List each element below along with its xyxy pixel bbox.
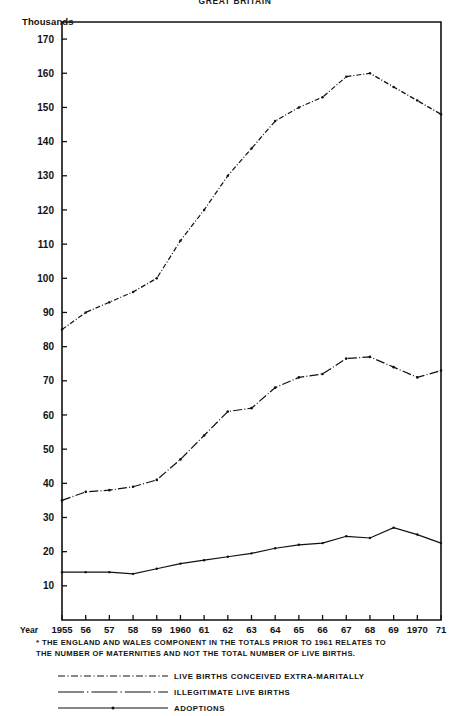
footnote: * THE ENGLAND AND WALES COMPONENT IN THE… bbox=[36, 637, 446, 659]
x-axis-tick-label: 65 bbox=[294, 624, 305, 635]
legend-key-adoptions-icon bbox=[56, 701, 174, 715]
data-point bbox=[345, 357, 348, 360]
data-point bbox=[132, 573, 134, 575]
data-point bbox=[108, 489, 111, 492]
data-point bbox=[392, 527, 394, 529]
x-axis-tick-label: 1970 bbox=[407, 624, 428, 635]
data-point bbox=[274, 120, 277, 123]
legend-label-adoptions: ADOPTIONS bbox=[174, 704, 225, 713]
legend-label-live-births: LIVE BIRTHS CONCEIVED EXTRA-MARITALLY bbox=[174, 672, 364, 681]
y-axis-tick-label: 20 bbox=[43, 546, 55, 557]
y-axis-tick-label: 90 bbox=[43, 307, 55, 318]
y-axis-tick-label: 40 bbox=[43, 478, 55, 489]
data-point bbox=[345, 535, 347, 537]
data-point bbox=[440, 113, 443, 116]
data-point bbox=[203, 559, 205, 561]
x-axis-tick-label: 69 bbox=[388, 624, 399, 635]
data-point bbox=[156, 568, 158, 570]
y-axis-tick-label: 100 bbox=[37, 273, 54, 284]
y-axis-tick-label: 120 bbox=[37, 205, 54, 216]
data-point bbox=[179, 458, 182, 461]
y-axis-tick-label: 10 bbox=[43, 580, 55, 591]
data-point bbox=[108, 571, 110, 573]
data-point bbox=[84, 491, 87, 494]
x-axis-tick-label: 61 bbox=[199, 624, 210, 635]
data-point bbox=[156, 277, 159, 280]
plot-frame bbox=[62, 22, 441, 620]
legend-label-illegitimate: ILLEGITIMATE LIVE BIRTHS bbox=[174, 688, 290, 697]
legend-key-illegitimate-icon bbox=[56, 685, 174, 699]
data-point bbox=[298, 106, 301, 109]
data-point bbox=[227, 175, 230, 178]
data-point bbox=[416, 376, 419, 379]
legend-item: ADOPTIONS bbox=[56, 700, 436, 716]
data-point bbox=[84, 571, 86, 573]
y-axis-tick-label: 70 bbox=[43, 375, 55, 386]
data-point bbox=[203, 434, 206, 437]
data-point bbox=[321, 373, 324, 376]
data-point bbox=[250, 407, 253, 410]
series-illegitimate bbox=[62, 357, 441, 501]
x-axis-tick-label: 67 bbox=[341, 624, 352, 635]
data-point bbox=[440, 369, 443, 372]
x-axis-tick-label: 62 bbox=[223, 624, 234, 635]
x-axis-tick-label: 57 bbox=[104, 624, 115, 635]
chart-legend: LIVE BIRTHS CONCEIVED EXTRA-MARITALLY IL… bbox=[56, 668, 436, 716]
data-point bbox=[61, 571, 63, 573]
x-axis-tick-label: 1960 bbox=[170, 624, 191, 635]
data-point bbox=[250, 147, 253, 150]
y-axis-tick-label: 170 bbox=[37, 34, 54, 45]
data-point bbox=[179, 562, 181, 564]
series-adoptions bbox=[62, 528, 441, 574]
data-point bbox=[155, 479, 158, 482]
data-point bbox=[298, 376, 301, 379]
y-axis-tick-label: 150 bbox=[37, 102, 54, 113]
data-point bbox=[274, 547, 276, 549]
data-point bbox=[298, 544, 300, 546]
x-axis-tick-label: 56 bbox=[80, 624, 91, 635]
legend-key-live-births-icon bbox=[56, 669, 174, 683]
data-point bbox=[132, 291, 135, 294]
y-axis-tick-label: 160 bbox=[37, 68, 54, 79]
data-point bbox=[440, 542, 442, 544]
y-axis-tick-label: 80 bbox=[43, 341, 55, 352]
footnote-line-1: THE ENGLAND AND WALES COMPONENT IN THE T… bbox=[42, 638, 386, 647]
y-axis-tick-label: 60 bbox=[43, 410, 55, 421]
data-point bbox=[321, 96, 324, 99]
data-point bbox=[203, 209, 206, 212]
data-point bbox=[369, 537, 371, 539]
data-point bbox=[61, 499, 64, 502]
y-axis-tick-label: 110 bbox=[38, 239, 55, 250]
x-axis-tick-label: 66 bbox=[317, 624, 328, 635]
data-point bbox=[416, 533, 418, 535]
data-point bbox=[274, 386, 277, 389]
footnote-marker: * bbox=[36, 638, 39, 647]
x-axis-tick-label: 1955 bbox=[51, 624, 73, 635]
series-live-births bbox=[62, 73, 441, 329]
line-chart: 1020304050607080901001101201301401501601… bbox=[0, 0, 470, 640]
data-point bbox=[416, 99, 419, 102]
data-point bbox=[345, 75, 348, 78]
x-axis-tick-label: 71 bbox=[436, 624, 447, 635]
data-point bbox=[108, 301, 111, 304]
x-axis-title: Year bbox=[20, 625, 39, 635]
data-point bbox=[84, 311, 87, 314]
data-point bbox=[250, 552, 252, 554]
chart-page: GREAT BRITAIN Thousands 1020304050607080… bbox=[0, 0, 470, 716]
x-axis-tick-label: 59 bbox=[151, 624, 162, 635]
x-axis-tick-label: 58 bbox=[128, 624, 139, 635]
data-point bbox=[227, 410, 230, 413]
data-point bbox=[369, 356, 372, 359]
legend-item: LIVE BIRTHS CONCEIVED EXTRA-MARITALLY bbox=[56, 668, 436, 684]
x-axis-tick-label: 68 bbox=[365, 624, 376, 635]
y-axis-tick-label: 50 bbox=[43, 444, 55, 455]
footnote-line-2: THE NUMBER OF MATERNITIES AND NOT THE TO… bbox=[36, 649, 355, 658]
data-point bbox=[132, 485, 135, 488]
data-point bbox=[392, 366, 395, 369]
y-axis-tick-label: 30 bbox=[43, 512, 55, 523]
y-axis-tick-label: 140 bbox=[37, 136, 54, 147]
legend-item: ILLEGITIMATE LIVE BIRTHS bbox=[56, 684, 436, 700]
data-point bbox=[369, 72, 372, 75]
data-point bbox=[321, 542, 323, 544]
data-point bbox=[392, 86, 395, 89]
